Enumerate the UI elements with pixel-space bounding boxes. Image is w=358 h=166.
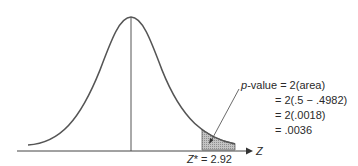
annotation-line-3: = 2(.0018): [275, 109, 325, 121]
axis-arrow-icon: [246, 148, 253, 155]
critical-value-rest: * = 2.92: [194, 153, 232, 165]
annotation-line-1: p-value = 2(area): [240, 79, 325, 91]
critical-value-label: Z* = 2.92: [186, 153, 232, 165]
pointer-line: [211, 89, 239, 141]
annotation-line-2: = 2(.5 − .4982): [275, 94, 347, 106]
p-symbol: p: [240, 79, 247, 91]
annotation-line-4: = .0036: [275, 124, 312, 136]
normal-curve-diagram: Z Z* = 2.92 p-value = 2(area) = 2(.5 − .…: [0, 0, 358, 166]
axis-label-z: Z: [255, 145, 264, 157]
annotation-line-1-rest: -value = 2(area): [247, 79, 325, 91]
